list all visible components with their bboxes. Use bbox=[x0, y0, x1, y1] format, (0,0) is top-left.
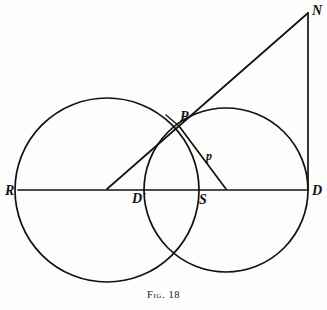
point-label-D-prime: D' bbox=[132, 192, 146, 206]
point-label-P: P bbox=[180, 110, 189, 124]
point-label-R: R bbox=[5, 184, 14, 198]
line-P-rightcenter bbox=[179, 126, 226, 189]
figure-container: R D' S D P p N Fig. 18 bbox=[0, 0, 327, 310]
geometry-drawing bbox=[0, 0, 327, 310]
segment-label-p: p bbox=[206, 150, 212, 162]
point-label-D: D bbox=[312, 184, 322, 198]
point-label-S: S bbox=[199, 193, 207, 207]
line-P-leftcenter bbox=[107, 126, 179, 189]
point-label-N: N bbox=[312, 4, 322, 18]
figure-caption: Fig. 18 bbox=[0, 289, 327, 300]
